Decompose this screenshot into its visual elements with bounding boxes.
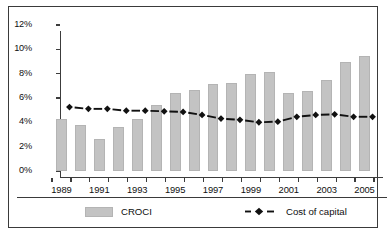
line-marker-diamond (142, 107, 149, 114)
x-tick-mark (336, 178, 337, 182)
bar (359, 56, 370, 171)
x-tick-label: 1989 (41, 184, 81, 195)
chart-outer-frame: 0%2%4%6%8%10%12% 19891991199319951997199… (8, 6, 378, 228)
line-marker-diamond (350, 113, 357, 120)
legend-label-cost-of-capital: Cost of capital (286, 206, 347, 217)
x-tick-mark (108, 178, 109, 182)
line-marker-diamond (199, 112, 206, 119)
x-tick-label: 1999 (231, 184, 271, 195)
line-marker-diamond (255, 119, 262, 126)
bar (132, 119, 143, 171)
bar (75, 125, 86, 171)
chart-legend: CROCI Cost of capital (17, 197, 387, 227)
x-tick-label: 1991 (79, 184, 119, 195)
bar (283, 93, 294, 171)
x-tick-label: 1995 (155, 184, 195, 195)
legend-swatch-croci (85, 207, 113, 217)
y-tick-label: 8% (0, 68, 32, 78)
line-marker-diamond (161, 108, 168, 115)
legend-divider (17, 197, 387, 198)
line-marker-diamond (274, 118, 281, 125)
y-tick-label: 6% (0, 92, 32, 102)
line-marker-diamond (293, 113, 300, 120)
x-tick-mark (279, 178, 280, 182)
y-tick-label: 12% (0, 19, 32, 29)
chart-figure: 0%2%4%6%8%10%12% 19891991199319951997199… (0, 0, 390, 236)
x-tick-mark (373, 178, 374, 182)
legend-item-croci: CROCI (85, 206, 152, 217)
line-marker-diamond (104, 105, 111, 112)
x-tick-mark (184, 178, 185, 182)
line-marker-diamond (66, 104, 73, 111)
x-tick-label: 1997 (193, 184, 233, 195)
bar (189, 90, 200, 171)
x-tick-mark (222, 178, 223, 182)
x-tick-label: 1993 (117, 184, 157, 195)
x-tick-mark (70, 178, 71, 182)
x-tick-mark (298, 178, 299, 182)
line-marker-diamond (85, 105, 92, 112)
bar (302, 91, 313, 171)
bar (56, 119, 67, 171)
legend-label-croci: CROCI (121, 206, 152, 217)
line-marker-diamond (312, 112, 319, 119)
bar (208, 84, 219, 171)
x-tick-mark (89, 178, 90, 182)
bar (264, 72, 275, 171)
bar (226, 83, 237, 171)
y-tick-label: 2% (0, 141, 32, 151)
bar (151, 105, 162, 171)
y-tick-label: 0% (0, 165, 32, 175)
legend-dashed-diamond-key (245, 207, 279, 216)
legend-item-cost-of-capital: Cost of capital (245, 206, 347, 217)
x-tick-mark (203, 178, 204, 182)
x-tick-label: 2003 (307, 184, 347, 195)
line-marker-diamond (123, 107, 130, 114)
bar (321, 80, 332, 171)
x-tick-mark (165, 178, 166, 182)
bar (245, 74, 256, 171)
x-tick-mark (146, 178, 147, 182)
line-marker-diamond (331, 111, 338, 118)
line-marker-diamond (180, 109, 187, 116)
y-tick-mark (56, 49, 60, 50)
bar (113, 127, 124, 171)
bar (340, 62, 351, 172)
bar (94, 139, 105, 171)
x-tick-mark (51, 178, 52, 182)
x-tick-mark (241, 178, 242, 182)
y-tick-mark (56, 24, 60, 25)
x-tick-label: 2005 (345, 184, 385, 195)
x-tick-mark (317, 178, 318, 182)
x-tick-mark (260, 178, 261, 182)
x-tick-label: 2001 (269, 184, 309, 195)
y-tick-label: 10% (0, 43, 32, 53)
line-dash-segment (113, 109, 122, 110)
x-tick-mark (127, 178, 128, 182)
y-tick-mark (56, 97, 60, 98)
y-tick-label: 4% (0, 116, 32, 126)
line-marker-diamond (237, 116, 244, 123)
y-tick-mark (56, 73, 60, 74)
line-marker-diamond (218, 115, 225, 122)
line-series-cost-of-capital (60, 31, 382, 177)
line-dash-segment (75, 108, 84, 109)
line-marker-diamond (369, 113, 376, 120)
bar (170, 93, 181, 171)
x-tick-mark (354, 178, 355, 182)
